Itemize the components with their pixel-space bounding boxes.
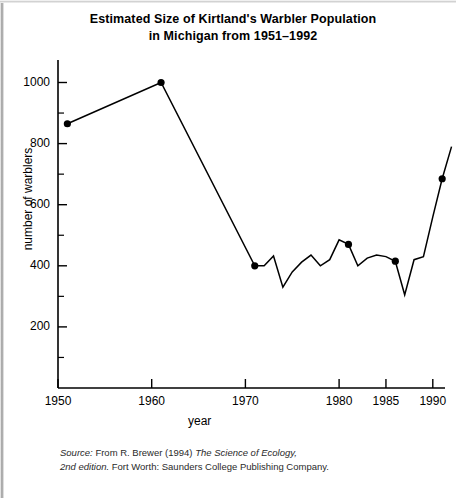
y-tick-label: 800 bbox=[6, 136, 50, 150]
x-tick-label: 1950 bbox=[35, 394, 81, 408]
source-line-1: Source: From R. Brewer (1994) The Scienc… bbox=[60, 446, 450, 460]
source-note: Source: From R. Brewer (1994) The Scienc… bbox=[60, 446, 450, 474]
y-tick-label: 400 bbox=[6, 258, 50, 272]
x-tick-label: 1970 bbox=[222, 394, 268, 408]
x-tick-label: 1980 bbox=[316, 394, 362, 408]
y-tick-label: 200 bbox=[6, 319, 50, 333]
y-tick-label: 1000 bbox=[6, 75, 50, 89]
line-chart-svg bbox=[0, 0, 456, 440]
figure-page: Estimated Size of Kirtland's Warbler Pop… bbox=[0, 0, 456, 498]
source-label: Source: bbox=[60, 447, 93, 458]
source-edition: 2nd edition. bbox=[60, 461, 109, 472]
y-tick-label: 600 bbox=[6, 197, 50, 211]
chart-plot-area: number of warblers year 2004006008001000… bbox=[0, 0, 456, 440]
x-axis-label: year bbox=[188, 414, 211, 428]
x-tick-label: 1985 bbox=[363, 394, 409, 408]
source-line-2: 2nd edition. Fort Worth: Saunders Colleg… bbox=[60, 460, 450, 474]
source-book-title: The Science of Ecology, bbox=[195, 447, 297, 458]
source-text-2: Fort Worth: Saunders College Publishing … bbox=[109, 461, 329, 472]
source-text-1: From R. Brewer (1994) bbox=[93, 447, 195, 458]
x-tick-label: 1960 bbox=[129, 394, 175, 408]
x-tick-label: 1990 bbox=[410, 394, 456, 408]
